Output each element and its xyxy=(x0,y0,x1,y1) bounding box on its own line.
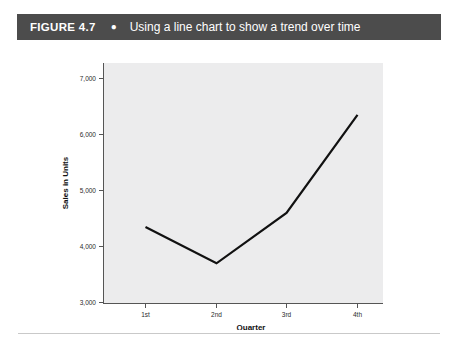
x-axis-tick-labels: 1st 2nd 3rd 4th xyxy=(141,311,362,318)
y-axis-title: Sales in Units xyxy=(61,156,70,209)
y-axis-ticks xyxy=(99,79,104,303)
y-tick-label: 4,000 xyxy=(80,243,97,250)
line-chart-figure: 7,000 6,000 5,000 4,000 3,000 Sales in U… xyxy=(0,40,458,330)
x-axis-ticks xyxy=(146,304,358,309)
figure-bottom-rule xyxy=(18,333,440,334)
figure-header-bar: FIGURE 4.7 ● Using a line chart to show … xyxy=(17,14,441,40)
y-axis-tick-labels: 7,000 6,000 5,000 4,000 3,000 xyxy=(80,75,97,306)
y-tick-label: 5,000 xyxy=(80,187,97,194)
x-axis-title: Quarter xyxy=(237,323,266,330)
bullet-separator-icon: ● xyxy=(111,22,117,32)
y-tick-label: 7,000 xyxy=(80,75,97,82)
x-tick-label: 4th xyxy=(353,311,362,318)
x-tick-label: 3rd xyxy=(282,311,292,318)
line-chart-svg: 7,000 6,000 5,000 4,000 3,000 Sales in U… xyxy=(0,40,458,330)
figure-caption: Using a line chart to show a trend over … xyxy=(130,20,361,34)
y-tick-label: 6,000 xyxy=(80,131,97,138)
x-tick-label: 1st xyxy=(141,311,150,318)
y-tick-label: 3,000 xyxy=(80,299,97,306)
figure-number-label: FIGURE 4.7 xyxy=(30,21,96,33)
x-tick-label: 2nd xyxy=(211,311,222,318)
plot-area-background xyxy=(104,63,383,303)
